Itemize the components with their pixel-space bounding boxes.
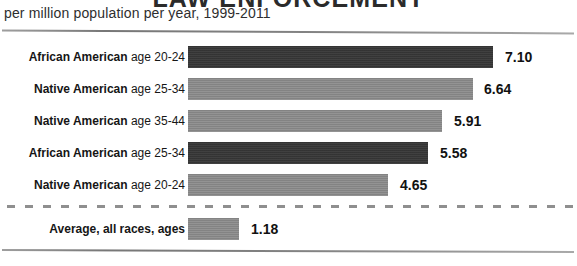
bar-row-group: African American: [29, 146, 128, 160]
bar-value: 6.64: [484, 81, 511, 97]
bar-row-age: age 25-34: [128, 82, 185, 96]
bar-row-label: Native American age 20-24: [34, 178, 185, 192]
divider-dotted: [2, 205, 574, 208]
bar-row-age: age 20-24: [128, 50, 185, 64]
divider-bottom: [2, 249, 574, 253]
bar: [188, 110, 442, 132]
bar-value: 7.10: [505, 49, 532, 65]
bar: [188, 46, 493, 68]
bar-row-age: age 20-24: [128, 178, 185, 192]
bar-row-label: Average, all races, ages: [49, 222, 185, 236]
bar-row: Native American age 25-34 6.64: [0, 78, 577, 100]
bar: [188, 218, 239, 240]
bar-chart: LAW ENFORCEMENT per million population p…: [0, 0, 577, 266]
bar: [188, 142, 428, 164]
bar: [188, 78, 473, 100]
bar-value: 5.58: [440, 145, 467, 161]
bar-row-group: African American: [29, 50, 128, 64]
bar-row-group: Average, all races, ages: [49, 222, 185, 236]
divider-top: [2, 30, 574, 35]
bar-row: African American age 20-24 7.10: [0, 46, 577, 68]
bar-row-label: Native American age 35-44: [34, 114, 185, 128]
bar-value: 4.65: [400, 177, 427, 193]
bar-row-average: Average, all races, ages 1.18: [0, 218, 577, 240]
bar-row-group: Native American: [34, 114, 128, 128]
chart-subtitle: per million population per year, 1999-20…: [4, 5, 271, 21]
bar-value: 1.18: [251, 221, 278, 237]
bar-row-age: age 35-44: [128, 114, 185, 128]
bar-row-label: African American age 25-34: [29, 146, 185, 160]
bar-row-label: Native American age 25-34: [34, 82, 185, 96]
bar-row: African American age 25-34 5.58: [0, 142, 577, 164]
bar-row: Native American age 35-44 5.91: [0, 110, 577, 132]
bar-row: Native American age 20-24 4.65: [0, 174, 577, 196]
bar-row-group: Native American: [34, 178, 128, 192]
bar-row-age: age 25-34: [128, 146, 185, 160]
bar-row-label: African American age 20-24: [29, 50, 185, 64]
bar-row-group: Native American: [34, 82, 128, 96]
bar: [188, 174, 388, 196]
bar-value: 5.91: [454, 113, 481, 129]
